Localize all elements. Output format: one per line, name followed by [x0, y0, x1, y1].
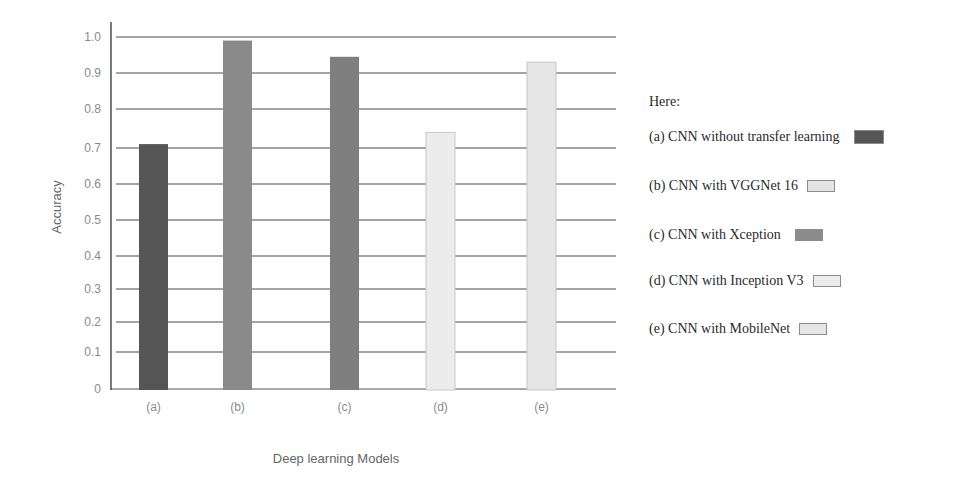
legend-swatch-icon: [807, 180, 835, 192]
bar-d: [426, 132, 455, 390]
legend-item-e: (e) CNN with MobileNet: [649, 321, 827, 337]
legend-swatch-icon: [795, 229, 823, 241]
x-tick-label: (d): [433, 400, 448, 414]
legend-swatch-icon: [854, 130, 884, 144]
bar-a: [139, 144, 168, 390]
y-tick-label: 0.5: [84, 213, 101, 227]
y-tick-label: 1.0: [84, 30, 101, 44]
legend-item-d: (d) CNN with Inception V3: [649, 273, 841, 289]
legend-label: (e) CNN with MobileNet: [649, 321, 790, 337]
y-axis-tick-labels: 00.10.20.30.40.50.60.70.80.91.0: [84, 30, 101, 396]
legend-title: Here:: [649, 94, 680, 110]
y-tick-label: 0.8: [84, 102, 101, 116]
bars: [139, 41, 556, 390]
bar-e: [527, 62, 556, 390]
y-tick-label: 0.7: [84, 141, 101, 155]
x-tick-label: (e): [534, 400, 549, 414]
y-tick-label: 0.6: [84, 177, 101, 191]
legend-item-b: (b) CNN with VGGNet 16: [649, 178, 835, 194]
y-tick-label: 0.3: [84, 282, 101, 296]
legend-label: (c) CNN with Xception: [649, 227, 781, 243]
x-axis-title: Deep learning Models: [273, 451, 400, 466]
legend-label: (d) CNN with Inception V3: [649, 273, 804, 289]
legend-item-a: (a) CNN without transfer learning: [649, 129, 884, 145]
x-axis-tick-labels: (a)(b)(c)(d)(e): [146, 400, 549, 414]
legend-label: (b) CNN with VGGNet 16: [649, 178, 798, 194]
y-tick-label: 0.1: [84, 345, 101, 359]
legend-swatch-icon: [799, 323, 827, 335]
legend-swatch-icon: [813, 275, 841, 287]
legend-item-c: (c) CNN with Xception: [649, 227, 823, 243]
x-tick-label: (b): [230, 400, 245, 414]
y-tick-label: 0.4: [84, 249, 101, 263]
x-tick-label: (c): [338, 400, 352, 414]
bar-b: [223, 41, 252, 390]
bar-chart: 00.10.20.30.40.50.60.70.80.91.0 (a)(b)(c…: [0, 0, 957, 487]
bar-c: [330, 57, 359, 390]
y-tick-label: 0.2: [84, 315, 101, 329]
legend-label: (a) CNN without transfer learning: [649, 129, 840, 145]
y-tick-label: 0: [94, 382, 101, 396]
y-tick-label: 0.9: [84, 66, 101, 80]
y-axis-title: Accuracy: [49, 180, 64, 234]
x-tick-label: (a): [146, 400, 161, 414]
